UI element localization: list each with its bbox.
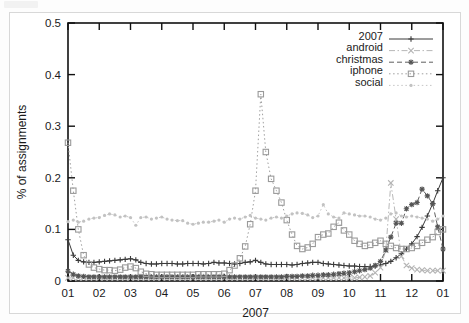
data-point-asterisk: [305, 273, 310, 278]
data-point-asterisk: [367, 265, 372, 270]
data-point-asterisk: [274, 274, 279, 279]
data-point-dot: [379, 219, 382, 222]
data-point-asterisk: [279, 274, 284, 279]
data-point-asterisk: [102, 274, 107, 279]
data-point-dot: [431, 220, 434, 223]
data-point-dot: [238, 217, 241, 220]
data-point-asterisk: [128, 274, 133, 279]
data-point-dot: [207, 221, 210, 224]
data-point-dot: [311, 216, 314, 219]
data-point-asterisk: [138, 274, 143, 279]
data-point-dot: [285, 214, 288, 217]
x-axis-title: 2007: [242, 306, 269, 320]
data-point-asterisk: [71, 272, 76, 277]
data-point-dot: [348, 212, 351, 215]
data-point-dot: [129, 216, 132, 219]
y-axis-title: % of assignments: [15, 105, 29, 200]
data-point-asterisk: [362, 267, 367, 272]
data-point-asterisk: [435, 224, 440, 229]
data-point-asterisk: [284, 274, 289, 279]
data-point-dot: [108, 212, 111, 215]
x-tick-label: 11: [375, 287, 387, 299]
data-point-dot: [165, 217, 168, 220]
data-point-asterisk: [263, 274, 268, 279]
x-tick-label: 07: [249, 287, 262, 299]
data-point-asterisk: [378, 259, 383, 264]
data-point-dot: [160, 215, 163, 218]
x-tick-label: 04: [155, 287, 168, 299]
data-point-asterisk: [321, 272, 326, 277]
data-point-asterisk: [65, 268, 70, 273]
data-point-asterisk: [404, 206, 409, 211]
data-point-dot: [337, 216, 340, 219]
data-point-dot: [275, 215, 278, 218]
data-point-dot: [181, 219, 184, 222]
data-point-dot: [139, 216, 142, 219]
data-point-asterisk: [81, 274, 86, 279]
data-point-dot: [342, 211, 345, 214]
data-point-dot: [202, 221, 205, 224]
data-point-asterisk: [352, 269, 357, 274]
x-tick-label: 01: [62, 287, 75, 299]
data-point-dot: [217, 219, 220, 222]
data-point-asterisk: [107, 274, 112, 279]
data-point-dot: [264, 219, 267, 222]
data-point-dot: [295, 211, 298, 214]
data-point-asterisk: [300, 273, 305, 278]
data-point-asterisk: [253, 274, 258, 279]
data-point-asterisk: [425, 193, 430, 198]
x-tick-label: 03: [124, 287, 137, 299]
data-point-dot: [426, 217, 429, 220]
data-point-dot: [176, 219, 179, 222]
data-point-dot: [353, 213, 356, 216]
data-point-asterisk: [310, 273, 315, 278]
legend-label-2007: 2007: [359, 30, 383, 42]
data-point-asterisk: [242, 274, 247, 279]
x-tick-label: 02: [93, 287, 106, 299]
data-point-asterisk: [117, 274, 122, 279]
data-point-asterisk: [289, 274, 294, 279]
data-point-dot: [290, 212, 293, 215]
legend-label-iphone: iphone: [350, 64, 383, 76]
data-point-dot: [134, 224, 137, 227]
data-point-asterisk: [294, 274, 299, 279]
data-point-asterisk: [258, 274, 263, 279]
data-point-asterisk: [341, 271, 346, 276]
data-point-dot: [389, 212, 392, 215]
data-point-dot: [420, 216, 423, 219]
chart-figure: 00.10.20.30.40.5010203040506070809101112…: [0, 0, 469, 323]
x-tick-label: 05: [187, 287, 200, 299]
data-point-dot: [170, 219, 173, 222]
data-point-asterisk: [440, 246, 445, 251]
x-tick-label: 01: [437, 287, 450, 299]
data-point-dot: [98, 216, 101, 219]
data-point-asterisk: [91, 274, 96, 279]
data-point-dot: [113, 213, 116, 216]
data-point-dot: [72, 219, 75, 222]
data-point-asterisk: [247, 274, 252, 279]
data-point-dot: [410, 214, 413, 217]
x-tick-label: 08: [280, 287, 293, 299]
data-point-dot: [197, 222, 200, 225]
data-point-asterisk: [414, 200, 419, 205]
data-point-asterisk: [315, 273, 320, 278]
x-tick-label: 09: [312, 287, 325, 299]
data-point-dot: [441, 214, 444, 217]
data-point-asterisk: [408, 60, 413, 65]
data-point-dot: [254, 216, 257, 219]
data-point-dot: [124, 214, 127, 217]
data-point-asterisk: [97, 274, 102, 279]
y-tick-label: 0: [55, 275, 61, 287]
data-point-asterisk: [122, 274, 127, 279]
data-point-dot: [191, 223, 194, 226]
data-point-asterisk: [237, 274, 242, 279]
data-point-dot: [280, 216, 283, 219]
data-point-dot: [228, 217, 231, 220]
data-point-dot: [233, 216, 236, 219]
legend-label-christmas: christmas: [336, 53, 384, 65]
data-point-dot: [103, 214, 106, 217]
x-tick-label: 12: [405, 287, 418, 299]
data-point-asterisk: [133, 274, 138, 279]
y-tick-label: 0.2: [45, 172, 61, 184]
data-point-asterisk: [268, 274, 273, 279]
